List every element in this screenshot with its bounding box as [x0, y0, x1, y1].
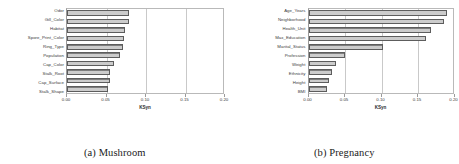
category-label: Ring_Type: [2, 44, 64, 49]
x-axis-tick-mark: [66, 94, 67, 97]
x-axis-tick-mark: [344, 94, 345, 97]
bar-row: [67, 10, 223, 16]
bar: [309, 19, 444, 25]
bar: [309, 78, 329, 84]
bar-row: [67, 52, 223, 58]
x-axis-tick-label: 0.20: [449, 97, 458, 102]
chart-mushroom: OdorGill_ColorHabitatSpore_Print_ColorRi…: [0, 0, 230, 128]
bar: [309, 86, 327, 92]
x-axis-pregnancy: 0.000.050.100.150.20KSyn: [308, 97, 454, 111]
bar-row: [309, 36, 453, 42]
x-axis-tick-mark: [417, 94, 418, 97]
bar: [67, 78, 110, 84]
bar: [309, 10, 448, 16]
x-axis-tick-label: 0.00: [62, 97, 71, 102]
x-axis-tick-label: 0.05: [340, 97, 349, 102]
x-axis-tick-label: 0.05: [101, 97, 110, 102]
x-axis-tick-mark: [106, 94, 107, 97]
subfigure-caption-mushroom: (a) Mushroom: [0, 147, 230, 158]
chart-pregnancy: Age_YearsNeighborhoodHealth_UnitMax_Educ…: [230, 0, 459, 128]
category-label: Cap_Surface: [2, 80, 64, 85]
bar-row: [67, 61, 223, 67]
bar-row: [67, 78, 223, 84]
x-axis-tick-mark: [224, 94, 225, 97]
bar: [67, 10, 129, 16]
bar: [67, 27, 125, 33]
bar: [309, 69, 332, 75]
bar: [309, 36, 427, 42]
bar-row: [309, 78, 453, 84]
bar-row: [67, 27, 223, 33]
bar: [67, 86, 108, 92]
bars-pregnancy: [309, 9, 453, 93]
figure-row: OdorGill_ColorHabitatSpore_Print_ColorRi…: [0, 0, 459, 164]
bar: [67, 44, 123, 50]
x-axis-tick-mark: [145, 94, 146, 97]
x-axis-tick-mark: [454, 94, 455, 97]
category-label: Marital_Status: [244, 44, 306, 49]
category-label: Habitat: [2, 26, 64, 31]
category-label: Spore_Print_Color: [2, 35, 64, 40]
category-label: Weight: [244, 62, 306, 67]
x-axis-tick-mark: [381, 94, 382, 97]
x-axis-tick-mark: [308, 94, 309, 97]
category-label: Ethnicity: [244, 71, 306, 76]
bar-row: [309, 69, 453, 75]
subfigure-caption-pregnancy: (b) Pregnancy: [230, 147, 459, 158]
category-label: Max_Education: [244, 35, 306, 40]
bar-row: [67, 44, 223, 50]
category-labels-mushroom: OdorGill_ColorHabitatSpore_Print_ColorRi…: [2, 8, 64, 94]
category-label: Age_Years: [244, 8, 306, 13]
plot-area-mushroom: [66, 8, 224, 94]
category-label: Cap_Color: [2, 62, 64, 67]
bar: [309, 61, 337, 67]
x-axis-mushroom: 0.000.050.100.150.20KSyn: [66, 97, 224, 111]
bar: [67, 52, 120, 58]
bar: [309, 44, 383, 50]
x-axis-tick-mark: [185, 94, 186, 97]
x-axis-tick-label: 0.15: [180, 97, 189, 102]
bar-row: [309, 44, 453, 50]
bars-mushroom: [67, 9, 223, 93]
category-label: Odor: [2, 8, 64, 13]
x-axis-tick-label: 0.10: [376, 97, 385, 102]
category-label: Neighborhood: [244, 17, 306, 22]
bar-row: [309, 52, 453, 58]
x-axis-tick-label: 0.10: [141, 97, 150, 102]
bar: [67, 19, 129, 25]
category-label: Health_Unit: [244, 26, 306, 31]
category-label: Stalk_Root: [2, 71, 64, 76]
category-label: Stalk_Shape: [2, 89, 64, 94]
category-label: Profession: [244, 53, 306, 58]
bar-row: [67, 86, 223, 92]
bar: [67, 36, 124, 42]
bar-row: [67, 19, 223, 25]
bar: [67, 61, 114, 67]
bar-row: [309, 27, 453, 33]
x-axis-label: KSyn: [139, 105, 151, 110]
subfigure-pregnancy: Age_YearsNeighborhoodHealth_UnitMax_Educ…: [230, 0, 459, 164]
category-labels-pregnancy: Age_YearsNeighborhoodHealth_UnitMax_Educ…: [244, 8, 306, 94]
category-label: Height: [244, 80, 306, 85]
category-label: BMI: [244, 89, 306, 94]
bar-row: [309, 19, 453, 25]
plot-area-pregnancy: [308, 8, 454, 94]
bar-row: [67, 69, 223, 75]
bar: [309, 27, 432, 33]
bar-row: [309, 10, 453, 16]
bar-row: [309, 61, 453, 67]
bar-row: [67, 36, 223, 42]
x-axis-tick-label: 0.15: [413, 97, 422, 102]
x-axis-tick-label: 0.00: [303, 97, 312, 102]
x-axis-label: KSyn: [375, 105, 387, 110]
bar-row: [309, 86, 453, 92]
category-label: Gill_Color: [2, 17, 64, 22]
bar: [67, 69, 110, 75]
x-axis-tick-label: 0.20: [220, 97, 229, 102]
category-label: Population: [2, 53, 64, 58]
bar: [309, 52, 346, 58]
subfigure-mushroom: OdorGill_ColorHabitatSpore_Print_ColorRi…: [0, 0, 230, 164]
